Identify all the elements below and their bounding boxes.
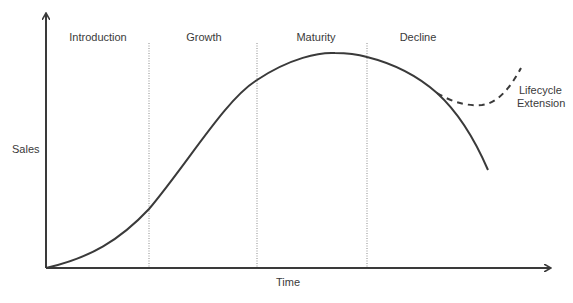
stage-growth-label: Growth <box>186 31 221 43</box>
stage-decline-label: Decline <box>400 31 437 43</box>
extension-curve <box>437 68 520 118</box>
stage-maturity-label: Maturity <box>296 31 335 43</box>
extension-curve-dashed <box>437 68 521 105</box>
lifecycle-diagram <box>0 0 573 303</box>
y-axis-label: Sales <box>12 143 40 155</box>
extension-label-line1: Lifecycle <box>517 84 565 97</box>
sales-curve <box>46 53 488 268</box>
lifecycle-extension-label: Lifecycle Extension <box>517 84 565 110</box>
extension-label-line2: Extension <box>517 97 565 110</box>
stage-introduction-label: Introduction <box>69 31 126 43</box>
x-axis-label: Time <box>276 276 300 288</box>
